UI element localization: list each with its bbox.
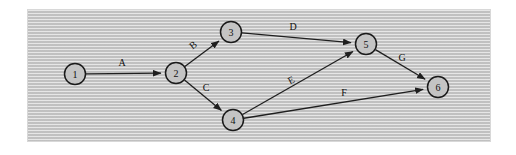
edge-label-B: B [187,38,199,51]
node-label-5: 5 [364,39,369,50]
edge-label-F: F [341,87,347,98]
node-4[interactable]: 4 [223,110,244,131]
node-label-6: 6 [436,82,441,93]
edge-labels-layer: ABCDEFG [118,21,405,98]
figure-root: 123456 ABCDEFG [0,0,516,155]
network-graph: 123456 ABCDEFG [0,0,516,155]
edge-label-D: D [289,21,296,32]
node-label-2: 2 [174,68,179,79]
edge-A [86,73,161,74]
nodes-layer: 123456 [65,22,449,131]
edge-label-C: C [203,82,210,93]
node-2[interactable]: 2 [166,63,187,84]
edge-F [244,89,423,118]
edge-label-A: A [118,57,126,68]
node-label-3: 3 [229,27,234,38]
node-label-1: 1 [73,69,78,80]
node-5[interactable]: 5 [356,34,377,55]
node-1[interactable]: 1 [65,64,86,85]
edge-D [242,33,351,43]
node-label-4: 4 [231,115,236,126]
node-6[interactable]: 6 [428,77,449,98]
edge-E [243,51,353,114]
node-3[interactable]: 3 [221,22,242,43]
edge-label-G: G [398,52,405,63]
